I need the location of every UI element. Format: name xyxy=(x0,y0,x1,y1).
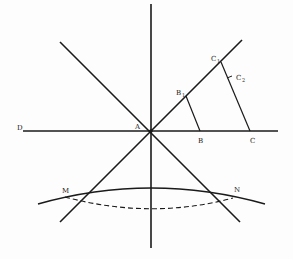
label-C1: C xyxy=(211,55,216,63)
segment-B1-B xyxy=(186,96,200,131)
label-C: C xyxy=(250,137,255,145)
label-C2: C xyxy=(236,74,241,82)
diagram-canvas: D A B C B 1 C 1 C 2 M N xyxy=(0,0,293,259)
segment-C1-C xyxy=(221,62,250,131)
arc-dashed xyxy=(65,197,233,209)
label-M: M xyxy=(62,187,69,195)
label-B1-sub: 1 xyxy=(182,92,185,98)
label-C2-sub: 2 xyxy=(242,77,245,83)
label-B1: B xyxy=(176,89,181,97)
label-D: D xyxy=(17,124,23,132)
label-C1-sub: 1 xyxy=(217,58,220,64)
label-A: A xyxy=(134,123,141,131)
point-A xyxy=(149,129,153,133)
label-N: N xyxy=(234,186,240,194)
geometry-figure: D A B C B 1 C 1 C 2 M N xyxy=(0,0,293,259)
label-B: B xyxy=(198,137,203,145)
